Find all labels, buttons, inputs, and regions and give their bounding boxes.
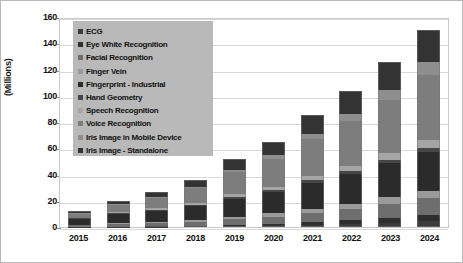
legend-swatch-icon	[78, 42, 83, 47]
bar-segment[interactable]	[107, 214, 130, 223]
stacked-bar[interactable]	[184, 180, 207, 227]
bar-segment[interactable]	[301, 213, 324, 222]
legend-item-label: Hand Geometry	[86, 93, 142, 102]
bar-segment[interactable]	[184, 188, 207, 202]
legend-item-label: Iris Image in Mobile Device	[86, 133, 182, 142]
x-axis-tick-label: 2016	[98, 230, 137, 248]
bar-segment[interactable]	[262, 217, 285, 224]
bar-segment[interactable]	[301, 139, 324, 176]
bar-segment[interactable]	[184, 206, 207, 220]
legend-item[interactable]: Finger Vein	[78, 65, 210, 78]
bar-segment[interactable]	[378, 90, 401, 100]
stacked-bar[interactable]	[68, 211, 91, 227]
y-axis-tick-labels: 020406080100120140160	[1, 18, 57, 228]
bar-segment[interactable]	[378, 100, 401, 154]
bar-segment[interactable]	[223, 159, 246, 170]
bar-segment[interactable]	[262, 225, 285, 227]
bar-segment[interactable]	[417, 30, 440, 62]
bar-segment[interactable]	[301, 115, 324, 134]
y-axis-tick-label: 60	[5, 143, 57, 153]
bar-segment[interactable]	[417, 62, 440, 74]
stacked-bar[interactable]	[339, 91, 362, 227]
bar-segment[interactable]	[339, 91, 362, 114]
legend-item[interactable]: Voice Recognition	[78, 117, 210, 130]
bar-column	[215, 19, 254, 227]
bar-column	[409, 19, 448, 227]
bar-segment[interactable]	[223, 226, 246, 227]
bar-segment[interactable]	[339, 114, 362, 121]
legend-swatch-icon	[78, 29, 83, 34]
legend-item[interactable]: Hand Geometry	[78, 91, 210, 104]
legend-swatch-icon	[78, 69, 83, 74]
bar-segment[interactable]	[145, 211, 168, 222]
x-axis-tick-label: 2018	[176, 230, 215, 248]
bar-segment[interactable]	[262, 142, 285, 156]
legend-swatch-icon	[78, 148, 83, 153]
legend-swatch-icon	[78, 135, 83, 140]
bar-segment[interactable]	[107, 205, 130, 212]
y-axis-tick-label: 40	[5, 170, 57, 180]
bar-segment[interactable]	[417, 198, 440, 214]
legend-item-label: Finger Vein	[86, 67, 126, 76]
chart-legend: ECGEye White RecognitionFacial Recogniti…	[73, 21, 213, 156]
bar-segment[interactable]	[378, 163, 401, 197]
stacked-bar[interactable]	[145, 192, 168, 227]
bar-segment[interactable]	[417, 140, 440, 147]
y-axis-tick-label: 100	[5, 91, 57, 101]
bar-segment[interactable]	[378, 223, 401, 227]
legend-swatch-icon	[78, 82, 83, 87]
legend-swatch-icon	[78, 95, 83, 100]
legend-item[interactable]: Fingerprint - Industrial	[78, 78, 210, 91]
bar-segment[interactable]	[417, 191, 440, 199]
bar-segment[interactable]	[339, 209, 362, 220]
bar-column	[332, 19, 371, 227]
legend-item[interactable]: Facial Recognition	[78, 51, 210, 64]
chart-frame: (Millions) 020406080100120140160 2015201…	[0, 0, 463, 263]
bar-segment[interactable]	[301, 183, 324, 209]
legend-item[interactable]: Iris Image - Standalone	[78, 144, 210, 157]
bar-segment[interactable]	[262, 192, 285, 213]
stacked-bar[interactable]	[223, 159, 246, 227]
x-axis-tick-label: 2024	[410, 230, 449, 248]
bar-segment[interactable]	[301, 225, 324, 227]
bar-segment[interactable]	[184, 180, 207, 187]
bar-segment[interactable]	[378, 62, 401, 90]
legend-item[interactable]: Eye White Recognition	[78, 38, 210, 51]
y-axis-tick-label: 120	[5, 65, 57, 75]
legend-item[interactable]: Iris Image in Mobile Device	[78, 131, 210, 144]
legend-item-label: Speech Recognition	[86, 106, 158, 115]
y-axis-tick-label: 140	[5, 38, 57, 48]
legend-item-label: Facial Recognition	[86, 53, 153, 62]
x-axis-tick-label: 2020	[254, 230, 293, 248]
bar-segment[interactable]	[145, 198, 168, 209]
y-axis-tick-label: 20	[5, 196, 57, 206]
y-axis-tick-label: 80	[5, 117, 57, 127]
bar-segment[interactable]	[223, 172, 246, 194]
legend-swatch-icon	[78, 121, 83, 126]
bar-segment[interactable]	[184, 226, 207, 227]
bar-segment[interactable]	[339, 224, 362, 227]
bar-segment[interactable]	[223, 199, 246, 217]
bar-segment[interactable]	[378, 204, 401, 218]
bar-segment[interactable]	[262, 159, 285, 187]
legend-item[interactable]: ECG	[78, 25, 210, 38]
legend-item-label: ECG	[86, 27, 103, 36]
x-axis-tick-label: 2023	[371, 230, 410, 248]
bar-segment[interactable]	[417, 75, 440, 141]
legend-item-label: Voice Recognition	[86, 119, 151, 128]
stacked-bar[interactable]	[301, 115, 324, 227]
stacked-bar[interactable]	[107, 201, 130, 227]
y-axis-tick-label: 160	[5, 12, 57, 22]
bar-column	[370, 19, 409, 227]
stacked-bar[interactable]	[378, 62, 401, 227]
bar-segment[interactable]	[417, 221, 440, 227]
legend-swatch-icon	[78, 108, 83, 113]
bar-segment[interactable]	[339, 174, 362, 204]
legend-item-label: Iris Image - Standalone	[86, 146, 168, 155]
legend-item[interactable]: Speech Recognition	[78, 104, 210, 117]
bar-segment[interactable]	[339, 121, 362, 166]
stacked-bar[interactable]	[417, 30, 440, 227]
stacked-bar[interactable]	[262, 142, 285, 227]
x-axis-tick-label: 2015	[59, 230, 98, 248]
bar-segment[interactable]	[417, 152, 440, 191]
